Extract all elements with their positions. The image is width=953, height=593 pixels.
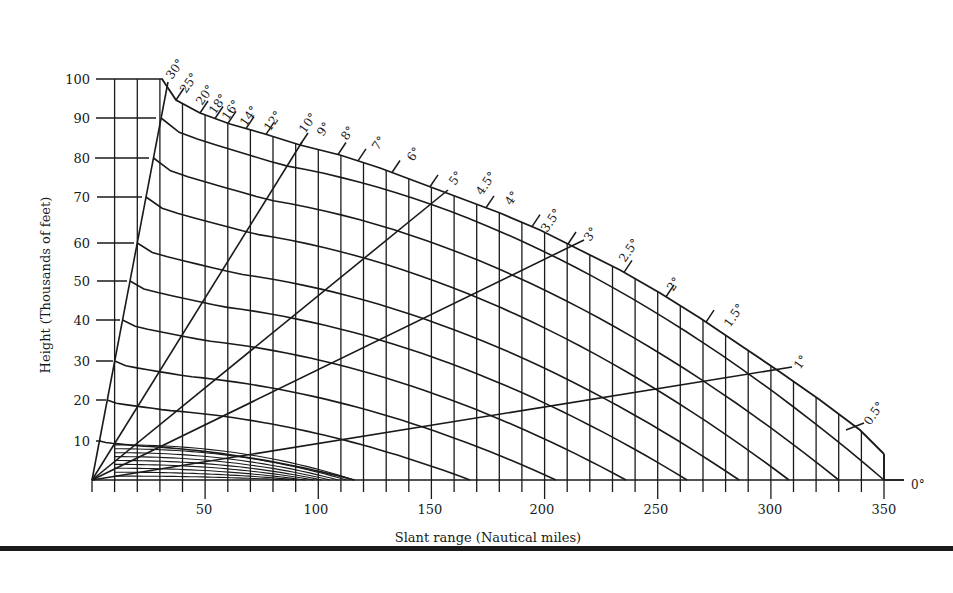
y-tick-40: 40 [73,313,90,328]
x-tick-150: 150 [418,502,443,517]
angle-label-ticks [176,88,904,480]
ray-5deg [92,190,448,480]
contour-90k [161,118,884,480]
y-axis-ticks [95,79,163,441]
x-tick-350: 350 [872,502,897,517]
angle-tick-16 [706,310,714,322]
y-tick-80: 80 [73,151,90,166]
x-tick-200: 200 [530,502,555,517]
angle-label-5: 5° [446,169,465,188]
y-tick-30: 30 [73,354,90,369]
y-tick-60: 60 [73,236,90,251]
ray-1deg [92,367,792,480]
bottom-rule-divider [0,546,953,551]
angle-tick-9 [392,161,400,173]
angle-label-3-5: 3.5° [538,206,564,235]
elevation-angle-rays [92,82,792,480]
angle-tick-0-5 [846,423,864,430]
y-tick-70: 70 [73,190,90,205]
angle-tick-8 [358,149,366,161]
angle-label-2: 2° [664,275,683,294]
y-tick-90: 90 [73,111,90,126]
y-tick-10: 10 [73,434,90,449]
angle-label-0: 0° [911,478,925,492]
x-tick-100: 100 [304,502,329,517]
angle-labels: 30° 25° 20° 18° 16° 14° 12° 10° 9° 8° 7°… [163,56,925,492]
y-tick-20: 20 [73,393,90,408]
x-tick-labels: 50 100 150 200 250 300 350 [196,502,897,517]
angle-tick-13 [568,232,576,244]
contour-100k [162,79,884,454]
x-tick-50: 50 [196,502,213,517]
radar-height-range-chart: 100 90 80 70 60 50 40 30 20 10 50 100 15… [0,0,953,593]
x-tick-250: 250 [644,502,669,517]
y-tick-100: 100 [65,72,90,87]
y-axis-title: Height (Thousands of feet) [38,197,53,374]
angle-tick-10 [430,175,438,187]
angle-label-6: 6° [404,145,423,164]
angle-label-4: 4° [502,189,521,208]
angle-label-2-5: 2.5° [616,236,642,265]
y-tick-labels: 100 90 80 70 60 50 40 30 20 10 [65,72,90,449]
angle-label-4-5: 4.5° [473,169,499,198]
angle-label-0-5: 0.5° [861,399,887,428]
angle-label-8: 8° [338,124,357,143]
contour-70k [146,197,789,480]
angle-tick-11 [486,196,494,208]
angle-label-1-5: 1.5° [721,301,747,330]
y-tick-50: 50 [73,274,90,289]
angle-label-9: 9° [314,120,333,139]
angle-label-7: 7° [369,134,388,153]
angle-label-1: 1° [791,353,810,372]
angle-tick-7 [338,143,346,155]
x-axis-title-visible: Slant range (Nautical miles) [395,530,581,545]
x-tick-300: 300 [758,502,783,517]
angle-label-12: 12° [261,108,285,133]
